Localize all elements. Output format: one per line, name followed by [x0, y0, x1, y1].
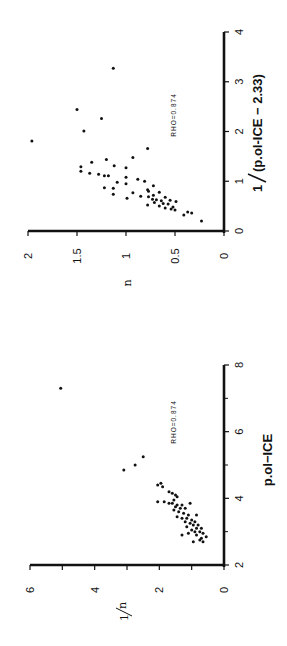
data-point: [187, 532, 190, 535]
data-point: [182, 214, 185, 217]
data-point: [112, 187, 115, 190]
data-point: [103, 174, 106, 177]
data-point: [134, 464, 137, 467]
y-tick-label: 0: [218, 587, 230, 593]
data-point: [190, 529, 193, 532]
x-tick-label: 4: [233, 29, 245, 35]
data-point: [192, 540, 195, 543]
data-point: [198, 539, 201, 542]
data-point: [167, 203, 170, 206]
data-point: [146, 147, 149, 150]
data-point: [181, 504, 184, 507]
axes: 0123400.511.52: [22, 29, 245, 264]
data-point: [184, 507, 187, 510]
data-point: [112, 67, 115, 70]
x-tick-label: 2: [233, 562, 245, 568]
data-point: [189, 502, 192, 505]
data-point: [195, 534, 198, 537]
data-point: [177, 510, 180, 513]
data-point: [143, 180, 146, 183]
y-tick-label: 1: [120, 253, 132, 259]
data-point: [112, 193, 115, 196]
y-tick-label: 2: [22, 253, 34, 259]
x-tick-label: 2: [233, 128, 245, 134]
data-point: [125, 166, 128, 169]
data-point: [172, 509, 175, 512]
data-point: [139, 195, 142, 198]
data-point: [193, 520, 196, 523]
data-point: [113, 164, 116, 167]
rho-annotation: RHO=0.874: [170, 93, 177, 137]
data-point: [142, 455, 145, 458]
data-point: [174, 505, 177, 508]
data-point: [168, 502, 171, 505]
data-point: [184, 520, 187, 523]
data-point: [79, 165, 82, 168]
data-point: [187, 514, 190, 517]
x-axis-title: p.ol−ICE: [260, 433, 275, 486]
data-point: [156, 484, 159, 487]
x-axis-title: 1 (p.ol-ICE − 2.33): [248, 74, 266, 192]
data-point: [158, 205, 161, 208]
data-point: [172, 499, 175, 502]
x-axis-title-text: (p.ol-ICE − 2.33): [250, 74, 265, 172]
scatter-points: [59, 387, 208, 543]
data-point: [181, 517, 184, 520]
data-point: [159, 482, 162, 485]
data-point: [147, 190, 150, 193]
data-point: [76, 108, 79, 111]
data-point: [189, 522, 192, 525]
data-point: [125, 176, 128, 179]
rho-annotation: RHO=0.874: [170, 400, 177, 444]
data-point: [103, 186, 106, 189]
data-point: [181, 534, 184, 537]
data-point: [200, 220, 203, 223]
data-point: [174, 209, 177, 212]
data-point: [97, 173, 100, 176]
y-tick-label: 0.5: [169, 248, 181, 263]
data-point: [131, 191, 134, 194]
x-tick-label: 3: [233, 79, 245, 85]
data-point: [100, 117, 103, 120]
y-axis-title: 1 n: [116, 602, 132, 621]
data-point: [202, 540, 205, 543]
axes: 24680246: [24, 362, 245, 593]
data-point: [171, 502, 174, 505]
chart-inverse-n-vs-pol-ice: 24680246 RHO=0.874 p.ol−ICE 1 n: [24, 362, 275, 621]
x-tick-label: 1: [233, 178, 245, 184]
y-tick-label: 0: [218, 253, 230, 259]
data-point: [193, 530, 196, 533]
y-tick-label: 6: [24, 587, 36, 593]
data-point: [82, 130, 85, 133]
data-point: [161, 485, 164, 488]
data-point: [176, 495, 179, 498]
data-point: [105, 158, 108, 161]
y-tick-label: 2: [153, 587, 165, 593]
data-point: [136, 178, 139, 181]
y-tick-label: 4: [89, 587, 101, 593]
data-point: [163, 500, 166, 503]
data-point: [90, 161, 93, 164]
data-point: [59, 387, 62, 390]
data-point: [153, 201, 156, 204]
data-point: [156, 500, 159, 503]
data-point: [152, 184, 155, 187]
data-point: [147, 195, 150, 198]
data-point: [190, 212, 193, 215]
data-point: [116, 181, 119, 184]
data-point: [107, 174, 110, 177]
x-tick-label: 4: [233, 495, 245, 501]
data-point: [131, 156, 134, 159]
data-point: [164, 196, 167, 199]
data-point: [179, 507, 182, 510]
data-point: [182, 512, 185, 515]
data-point: [195, 514, 198, 517]
data-point: [79, 170, 82, 173]
data-point: [155, 198, 158, 201]
y-axis-title-denominator: n: [116, 602, 129, 609]
y-axis-title: n: [121, 279, 134, 286]
data-point: [195, 527, 198, 530]
x-axis-title-numerator: 1: [250, 185, 265, 192]
data-point: [152, 194, 155, 197]
data-point: [205, 535, 208, 538]
